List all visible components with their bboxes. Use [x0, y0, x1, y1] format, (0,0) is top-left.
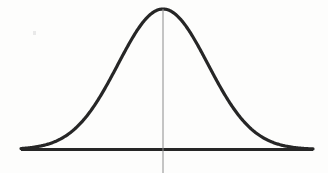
- bell-curve-figure: [0, 0, 328, 173]
- bell-curve-canvas: [0, 0, 328, 173]
- bell-curve: [21, 9, 313, 149]
- scan-speck: [33, 31, 36, 35]
